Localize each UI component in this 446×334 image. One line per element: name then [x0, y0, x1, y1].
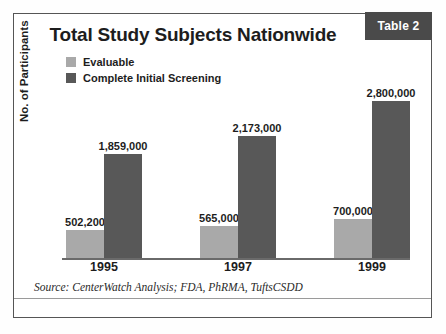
bar-complete-1999: 2,800,000	[372, 101, 410, 258]
table-number-badge: Table 2	[365, 12, 432, 40]
chart-figure: Table 2 Total Study Subjects Nationwide …	[0, 0, 446, 334]
source-note: Source: CenterWatch Analysis; FDA, PhRMA…	[34, 281, 303, 293]
y-axis-label: No. of Participants	[18, 20, 30, 122]
bar-value-label-complete-1999: 2,800,000	[367, 87, 416, 99]
chart-title: Total Study Subjects Nationwide	[28, 24, 358, 46]
legend-item-evaluable: Evaluable	[66, 55, 221, 69]
bar-value-label-complete-1995: 1,859,000	[99, 140, 148, 152]
x-axis-labels: 1995 1997 1999	[66, 260, 410, 280]
bar-complete-1997: 2,173,000	[238, 136, 276, 258]
bar-group-1997: 565,000 2,173,000	[200, 88, 276, 258]
x-axis-tick-1995: 1995	[90, 260, 118, 274]
bar-group-1999: 700,000 2,800,000	[334, 88, 410, 258]
bar-evaluable-1997: 565,000	[200, 226, 238, 258]
bar-value-label-evaluable-1995: 502,200	[65, 216, 105, 228]
x-axis-tick-1997: 1997	[224, 260, 252, 274]
bar-value-label-evaluable-1997: 565,000	[199, 212, 239, 224]
bar-groups: 502,200 1,859,000 565,000 2,173,000 700,…	[66, 88, 410, 258]
bar-evaluable-1999: 700,000	[334, 219, 372, 258]
x-axis-tick-1999: 1999	[358, 260, 386, 274]
bar-complete-1995: 1,859,000	[104, 154, 142, 258]
bar-value-label-evaluable-1999: 700,000	[333, 205, 373, 217]
table-number-label: Table 2	[378, 19, 420, 33]
legend-swatch-light-icon	[66, 57, 76, 67]
chart-legend: Evaluable Complete Initial Screening	[66, 55, 221, 87]
legend-label-evaluable: Evaluable	[83, 56, 134, 68]
bar-group-1995: 502,200 1,859,000	[66, 88, 142, 258]
legend-swatch-dark-icon	[66, 73, 76, 83]
legend-label-complete-initial-screening: Complete Initial Screening	[83, 72, 221, 84]
footer-divider	[14, 298, 431, 299]
bar-evaluable-1995: 502,200	[66, 230, 104, 258]
plot-area: No. of Participants 502,200 1,859,000 56…	[24, 88, 414, 263]
bar-value-label-complete-1997: 2,173,000	[233, 122, 282, 134]
legend-item-complete-initial-screening: Complete Initial Screening	[66, 71, 221, 85]
